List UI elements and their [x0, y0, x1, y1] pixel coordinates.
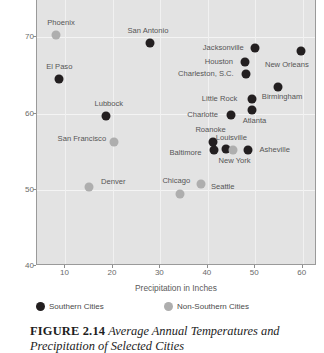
x-axis-tick-label: 20: [107, 268, 116, 277]
data-point-label: Birmingham: [262, 93, 303, 102]
data-point-label: Louisville: [216, 133, 247, 142]
x-axis-title: Precipitation in Inches: [36, 283, 316, 293]
data-point: [241, 69, 250, 78]
data-point: [101, 111, 110, 120]
gridline-vertical: [303, 0, 304, 264]
legend-label: Southern Cities: [49, 302, 104, 311]
data-point-label: Jacksonville: [203, 44, 244, 53]
x-axis-tick-mark: [159, 265, 160, 268]
figure-number: FIGURE 2.14: [30, 324, 105, 338]
data-point-label: Baltimore: [169, 149, 201, 158]
data-point: [209, 146, 218, 155]
data-point: [196, 180, 205, 189]
data-point-label: Denver: [101, 178, 125, 187]
y-axis-tick-label: 50: [0, 184, 34, 193]
x-axis-tick-mark: [207, 265, 208, 268]
data-point-label: Houston: [205, 57, 233, 66]
gridline-horizontal: [37, 37, 315, 38]
y-axis-tick-mark: [33, 265, 36, 266]
data-point: [243, 146, 252, 155]
y-axis-tick-mark: [33, 36, 36, 37]
y-axis-tick-mark: [33, 113, 36, 114]
legend-swatch-icon: [36, 302, 45, 311]
y-axis-tick-label: 60: [0, 108, 34, 117]
y-axis-tick-label: 40: [0, 261, 34, 270]
data-point-label: Chicago: [162, 176, 190, 185]
gridline-vertical: [65, 0, 66, 264]
data-point-label: Charlotte: [187, 111, 218, 120]
data-point: [247, 106, 256, 115]
data-point: [226, 111, 235, 120]
gridline-horizontal: [37, 114, 315, 115]
gridline-vertical: [255, 0, 256, 264]
data-point: [51, 30, 60, 39]
data-point-label: Asheville: [260, 146, 290, 155]
data-point: [274, 82, 283, 91]
data-point: [55, 75, 64, 84]
legend-swatch-icon: [164, 302, 173, 311]
data-point-label: Phoenix: [47, 19, 74, 28]
data-point-label: El Paso: [46, 63, 72, 72]
data-point: [247, 95, 256, 104]
data-point-label: Atlanta: [243, 117, 267, 126]
data-point-label: Little Rock: [202, 95, 237, 104]
data-point: [85, 183, 94, 192]
x-axis-tick-label: 30: [155, 268, 164, 277]
y-axis-tick-mark: [33, 189, 36, 190]
data-point-label: Seattle: [211, 183, 235, 192]
legend-label: Non-Southern Cities: [177, 302, 249, 311]
x-axis-tick-mark: [254, 265, 255, 268]
data-point: [109, 138, 118, 147]
x-axis-tick-label: 40: [202, 268, 211, 277]
data-point-label: San Francisco: [58, 135, 107, 144]
figure-caption: FIGURE 2.14 Average Annual Temperatures …: [30, 324, 324, 353]
x-axis-tick-label: 50: [250, 268, 259, 277]
data-point: [240, 57, 249, 66]
legend-item: Southern Cities: [36, 302, 104, 311]
data-point-label: San Antonio: [127, 27, 168, 36]
data-point-label: New Orleans: [265, 61, 309, 70]
data-point: [176, 189, 185, 198]
y-axis-tick-label: 70: [0, 32, 34, 41]
x-axis-tick-mark: [64, 265, 65, 268]
legend-item: Non-Southern Cities: [164, 302, 249, 311]
gridline-vertical: [113, 0, 114, 264]
data-point-label: Lubbock: [94, 99, 123, 108]
x-axis-tick-mark: [302, 265, 303, 268]
data-point-label: New York: [218, 157, 250, 166]
scatter-plot-area: El PasoLubbockSan AntonioJacksonvilleHou…: [36, 0, 316, 265]
gridline-vertical: [160, 0, 161, 264]
data-point: [251, 43, 260, 52]
data-point: [228, 146, 237, 155]
data-point: [145, 39, 154, 48]
data-point: [296, 46, 305, 55]
x-axis-tick-label: 10: [60, 268, 69, 277]
data-point-label: Charleston, S.C.: [178, 70, 234, 79]
x-axis-tick-mark: [112, 265, 113, 268]
chart-legend: Southern CitiesNon-Southern Cities: [36, 302, 316, 318]
x-axis-tick-label: 60: [297, 268, 306, 277]
